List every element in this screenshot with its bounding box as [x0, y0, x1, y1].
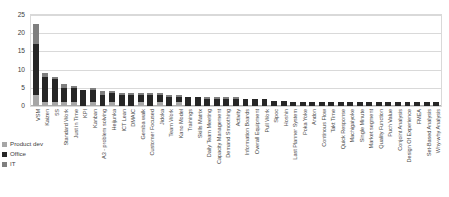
- x-label-cell: KPI: [79, 108, 89, 196]
- bar-segment-office: [290, 102, 296, 106]
- bar-stack: [128, 93, 134, 106]
- bar-column[interactable]: [250, 15, 260, 106]
- bar-column[interactable]: [336, 15, 346, 106]
- bar-segment-office: [347, 102, 353, 106]
- x-label-cell: Standard Work: [60, 108, 70, 196]
- bar-stack: [71, 86, 77, 106]
- bar-column[interactable]: [126, 15, 136, 106]
- bar-column[interactable]: [431, 15, 441, 106]
- x-label-cell: Conjoint Analysis: [393, 108, 403, 196]
- bar-stack: [319, 102, 325, 106]
- bar-segment-product-dev: [157, 102, 163, 106]
- bar-segment-office: [300, 102, 306, 106]
- bar-column[interactable]: [288, 15, 298, 106]
- bar-column[interactable]: [212, 15, 222, 106]
- bar-column[interactable]: [79, 15, 89, 106]
- bar-column[interactable]: [393, 15, 403, 106]
- bar-segment-office: [33, 44, 39, 95]
- bar-column[interactable]: [279, 15, 289, 106]
- bar-segment-office: [366, 102, 372, 106]
- bar-column[interactable]: [50, 15, 60, 106]
- x-label-cell: Poka Yoke: [298, 108, 308, 196]
- bar-column[interactable]: [164, 15, 174, 106]
- y-tick-label: 25: [18, 12, 25, 19]
- x-label-cell: Set-Based Analysis: [422, 108, 432, 196]
- bar-column[interactable]: [31, 15, 41, 106]
- bar-column[interactable]: [136, 15, 146, 106]
- bar-segment-office: [109, 93, 115, 102]
- bar-column[interactable]: [41, 15, 51, 106]
- y-tick-label: 15: [18, 48, 25, 55]
- bar-column[interactable]: [412, 15, 422, 106]
- bar-segment-product-dev: [109, 102, 115, 106]
- x-label-cell: FMEA: [412, 108, 422, 196]
- bar-column[interactable]: [241, 15, 251, 106]
- x-label-cell: Pull Work: [260, 108, 270, 196]
- bar-column[interactable]: [365, 15, 375, 106]
- bar-column[interactable]: [203, 15, 213, 106]
- bar-column[interactable]: [174, 15, 184, 106]
- bar-stack: [80, 90, 86, 106]
- bar-column[interactable]: [98, 15, 108, 106]
- bar-column[interactable]: [107, 15, 117, 106]
- bar-stack: [328, 102, 334, 106]
- bar-stack: [214, 97, 220, 106]
- legend-item[interactable]: Product dev: [2, 141, 43, 147]
- y-tick-label: 5: [21, 85, 25, 92]
- x-label-cell: Gemba walk: [136, 108, 146, 196]
- bar-segment-product-dev: [42, 102, 48, 106]
- bar-column[interactable]: [260, 15, 270, 106]
- bar-stack: [290, 102, 296, 106]
- legend-swatch-icon: [2, 162, 7, 167]
- bar-column[interactable]: [184, 15, 194, 106]
- bar-column[interactable]: [422, 15, 432, 106]
- bar-stack: [61, 84, 67, 106]
- x-label-cell: Sipoc: [269, 108, 279, 196]
- x-label-cell: Continous Flow: [317, 108, 327, 196]
- legend-item[interactable]: IT: [2, 161, 43, 167]
- x-label-cell: Skills Matrix: [193, 108, 203, 196]
- bar-segment-office: [424, 102, 430, 106]
- bar-column[interactable]: [88, 15, 98, 106]
- x-label-cell: Why-why Analysis: [431, 108, 441, 196]
- legend-label: IT: [10, 161, 16, 167]
- x-label-cell: Demand Smoothing: [222, 108, 232, 196]
- bar-column[interactable]: [193, 15, 203, 106]
- bar-column[interactable]: [269, 15, 279, 106]
- x-label-cell: Capacity Management: [212, 108, 222, 196]
- bar-segment-product-dev: [61, 102, 67, 106]
- x-label-cell: Last Planner System: [288, 108, 298, 196]
- bar-column[interactable]: [145, 15, 155, 106]
- x-label-cell: Andon: [307, 108, 317, 196]
- bar-stack: [109, 91, 115, 106]
- x-label-cell: Quick Response: [336, 108, 346, 196]
- bar-column[interactable]: [155, 15, 165, 106]
- bar-stack: [52, 77, 58, 106]
- bar-column[interactable]: [298, 15, 308, 106]
- bar-series-group: [31, 15, 441, 106]
- bar-column[interactable]: [326, 15, 336, 106]
- x-label-cell: Quality Function: [374, 108, 384, 196]
- bar-column[interactable]: [374, 15, 384, 106]
- bar-column[interactable]: [346, 15, 356, 106]
- legend-item[interactable]: Office: [2, 151, 43, 157]
- bar-stack: [157, 93, 163, 106]
- bar-column[interactable]: [117, 15, 127, 106]
- bar-stack: [233, 97, 239, 106]
- bar-column[interactable]: [384, 15, 394, 106]
- bar-column[interactable]: [60, 15, 70, 106]
- bar-column[interactable]: [317, 15, 327, 106]
- bar-segment-office: [395, 102, 401, 106]
- legend-swatch-icon: [2, 142, 7, 147]
- bar-segment-office: [61, 88, 67, 103]
- bar-stack: [424, 102, 430, 106]
- bar-column[interactable]: [307, 15, 317, 106]
- bar-segment-office: [433, 102, 439, 106]
- x-label-cell: ICT Lean: [117, 108, 127, 196]
- bar-column[interactable]: [231, 15, 241, 106]
- bar-column[interactable]: [355, 15, 365, 106]
- bar-column[interactable]: [403, 15, 413, 106]
- bar-column[interactable]: [222, 15, 232, 106]
- bar-column[interactable]: [69, 15, 79, 106]
- bar-segment-office: [281, 101, 287, 106]
